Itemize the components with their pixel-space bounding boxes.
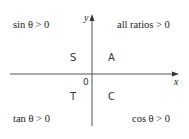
quadrant-ii-statement: sin θ > 0 [13, 20, 49, 31]
quadrant-iv-letter: C [108, 92, 115, 102]
origin-label: 0 [83, 78, 89, 87]
quadrant-iv-statement: cos θ > 0 [132, 114, 170, 125]
quadrant-iii-statement: tan θ > 0 [13, 114, 50, 125]
quadrant-iii-letter: T [70, 92, 76, 102]
x-axis-label: x [174, 77, 178, 87]
quadrant-i-letter: A [108, 53, 115, 63]
quadrant-ii-letter: S [70, 53, 76, 63]
y-axis-label: y [84, 13, 88, 23]
y-axis-arrow-icon [90, 14, 95, 21]
quadrant-i-statement: all ratios > 0 [117, 20, 170, 31]
